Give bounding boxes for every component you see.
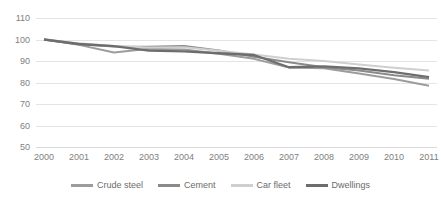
x-tick-label: 2000 bbox=[34, 152, 54, 162]
legend-item[interactable]: Crude steel bbox=[71, 180, 143, 190]
y-axis-tick-labels: 1101009080706050 bbox=[0, 0, 32, 170]
chart-legend: Crude steelCementCar fleetDwellings bbox=[0, 176, 441, 194]
x-tick-label: 2011 bbox=[419, 152, 438, 162]
x-tick-label: 2005 bbox=[209, 152, 229, 162]
legend-item[interactable]: Cement bbox=[158, 180, 216, 190]
y-tick-label: 100 bbox=[15, 35, 30, 44]
y-tick-label: 90 bbox=[20, 57, 30, 66]
y-tick-label: 110 bbox=[16, 14, 30, 23]
legend-line-swatch bbox=[158, 184, 180, 187]
x-tick-label: 2006 bbox=[244, 152, 264, 162]
legend-label: Cement bbox=[184, 180, 216, 190]
y-tick-label: 80 bbox=[20, 78, 30, 87]
y-tick-label: 60 bbox=[20, 121, 30, 130]
legend-item[interactable]: Dwellings bbox=[306, 180, 371, 190]
x-tick-label: 2007 bbox=[279, 152, 299, 162]
x-tick-label: 2004 bbox=[174, 152, 194, 162]
y-tick-label: 70 bbox=[20, 100, 30, 109]
x-tick-label: 2010 bbox=[384, 152, 404, 162]
legend-line-swatch bbox=[231, 184, 253, 187]
series-lines bbox=[36, 0, 437, 170]
x-tick-label: 2009 bbox=[349, 152, 369, 162]
plot-area: 1101009080706050 20002001200220032004200… bbox=[0, 0, 441, 170]
legend-label: Car fleet bbox=[257, 180, 291, 190]
legend-label: Dwellings bbox=[332, 180, 371, 190]
x-tick-label: 2002 bbox=[104, 152, 124, 162]
x-tick-label: 2001 bbox=[69, 152, 89, 162]
y-tick-label: 50 bbox=[20, 143, 30, 152]
x-tick-label: 2008 bbox=[314, 152, 334, 162]
x-axis-tick-labels: 2000200120022003200420052006200720082009… bbox=[36, 148, 437, 168]
legend-label: Crude steel bbox=[97, 180, 143, 190]
legend-item[interactable]: Car fleet bbox=[231, 180, 291, 190]
legend-line-swatch bbox=[306, 184, 328, 187]
x-tick-label: 2003 bbox=[139, 152, 159, 162]
line-chart: 1101009080706050 20002001200220032004200… bbox=[0, 0, 441, 200]
legend-line-swatch bbox=[71, 184, 93, 187]
